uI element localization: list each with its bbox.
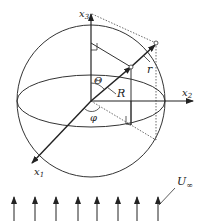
x1-label: x1: [34, 166, 44, 179]
x2-label: x2: [182, 87, 193, 100]
phi-arc: [84, 107, 100, 112]
flow-arrows: [14, 197, 158, 221]
r-label: r: [147, 63, 153, 76]
r-leader: [144, 56, 150, 62]
R-label: R: [116, 87, 125, 100]
x1-axis: [32, 101, 91, 163]
sphere-diagram: x3 x2 x1 Θ φ R r U∞: [0, 0, 206, 221]
point-on-sphere: [129, 65, 133, 69]
point-P: [154, 41, 158, 45]
theta-label: Θ: [94, 75, 102, 86]
R-leader: [107, 87, 116, 94]
x3-label: x3: [79, 8, 90, 21]
U-leader: [159, 188, 175, 205]
U-label: U∞: [177, 175, 193, 190]
phi-label: φ: [90, 112, 97, 123]
